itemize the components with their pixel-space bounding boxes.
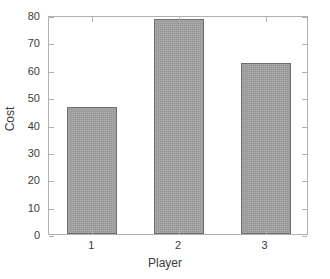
y-axis-title: Cost — [3, 89, 17, 149]
x-axis-title: Player — [0, 256, 330, 270]
x-tick-label: 1 — [88, 239, 94, 251]
x-tick-label: 2 — [175, 239, 181, 251]
x-tick-label: 3 — [262, 239, 268, 251]
x-axis-tick-labels: 123 — [0, 0, 330, 279]
bar-chart-figure: 01020304050607080 123 Player Cost — [0, 0, 330, 279]
